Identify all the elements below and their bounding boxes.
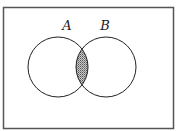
set-a-label: A [61,18,71,33]
venn-diagram: A B [0,0,176,131]
universe-rectangle [4,8,174,129]
set-b-label: B [99,18,110,33]
